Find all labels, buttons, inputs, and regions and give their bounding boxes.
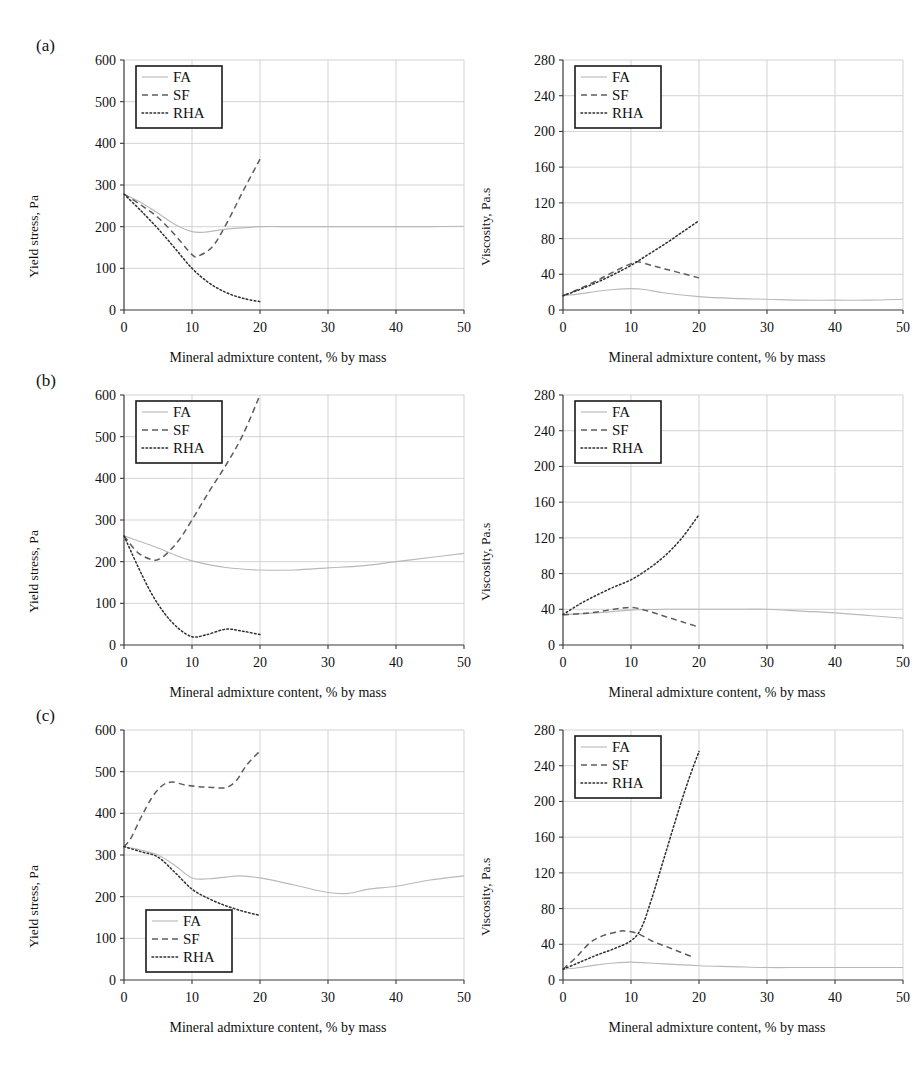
series-group (563, 221, 903, 301)
legend-label-rha: RHA (173, 440, 205, 456)
y-tick-label: 400 (95, 471, 116, 486)
x-tick-label: 10 (624, 320, 638, 335)
y-tick-label: 280 (534, 53, 555, 68)
x-tick-label: 50 (896, 655, 910, 670)
legend-label-rha: RHA (173, 105, 205, 121)
y-tick-label: 300 (95, 178, 116, 193)
legend: FASFRHA (136, 66, 222, 128)
x-tick-label: 40 (828, 990, 842, 1005)
y-tick-label: 120 (534, 196, 555, 211)
x-tick-label: 50 (896, 990, 910, 1005)
y-tick-label: 300 (95, 848, 116, 863)
chart-a_visc: 0408012016020024028001020304050FASFRHA (517, 46, 915, 344)
legend-label-rha: RHA (612, 105, 644, 121)
panel-letter: (b) (36, 371, 56, 391)
y-tick-label: 40 (541, 937, 555, 952)
legend: FASFRHA (146, 910, 232, 972)
y-tick-label: 240 (534, 89, 555, 104)
y-tick-label: 0 (109, 973, 116, 988)
x-tick-label: 40 (828, 655, 842, 670)
x-tick-label: 0 (121, 990, 128, 1005)
x-tick-label: 0 (560, 320, 567, 335)
series-line-fa (563, 962, 903, 969)
x-tick-label: 50 (896, 320, 910, 335)
x-tick-label: 0 (560, 655, 567, 670)
x-tick-label: 30 (321, 320, 335, 335)
y-tick-label: 80 (541, 232, 555, 247)
series-line-fa (563, 289, 903, 301)
chart-c_visc: 0408012016020024028001020304050FASFRHA (517, 716, 915, 1014)
panel-letter: (a) (36, 36, 55, 56)
legend-label-sf: SF (612, 757, 629, 773)
legend-label-sf: SF (173, 422, 190, 438)
panel-c_visc: Viscosity, Pa.s0408012016020024028001020… (452, 698, 908, 1033)
y-axis-label: Viscosity, Pa.s (478, 188, 494, 266)
legend: FASFRHA (575, 66, 661, 128)
y-axis-label: Viscosity, Pa.s (478, 858, 494, 936)
x-tick-label: 30 (321, 990, 335, 1005)
y-tick-label: 40 (541, 602, 555, 617)
legend: FASFRHA (575, 401, 661, 463)
y-tick-label: 120 (534, 531, 555, 546)
y-tick-label: 500 (95, 95, 116, 110)
panel-a_yield: (a)Yield stress, Pa010020030040050060001… (0, 28, 462, 363)
legend-label-sf: SF (173, 87, 190, 103)
x-axis-label: Mineral admixture content, % by mass (517, 1020, 915, 1036)
y-tick-label: 600 (95, 53, 116, 68)
figure-row-c: (c)Yield stress, Pa010020030040050060001… (0, 698, 908, 1033)
chart-b_yield: 010020030040050060001020304050FASFRHA (78, 381, 478, 679)
series-line-fa (563, 609, 903, 618)
x-tick-label: 30 (760, 990, 774, 1005)
y-tick-label: 200 (95, 890, 116, 905)
x-tick-label: 20 (253, 655, 267, 670)
plot-area-c_visc: 0408012016020024028001020304050FASFRHA (517, 716, 915, 1014)
legend-label-fa: FA (173, 404, 191, 420)
y-tick-label: 160 (534, 160, 555, 175)
series-group (124, 751, 464, 916)
x-tick-label: 0 (121, 655, 128, 670)
y-tick-label: 0 (548, 303, 555, 318)
y-tick-label: 200 (534, 124, 555, 139)
y-tick-label: 600 (95, 388, 116, 403)
x-tick-label: 20 (692, 655, 706, 670)
series-group (563, 515, 903, 628)
x-tick-label: 30 (321, 655, 335, 670)
panel-a_visc: Viscosity, Pa.s0408012016020024028001020… (452, 28, 908, 363)
x-tick-label: 10 (185, 990, 199, 1005)
figure-row-b: (b)Yield stress, Pa010020030040050060001… (0, 363, 908, 698)
y-tick-label: 400 (95, 136, 116, 151)
x-tick-label: 10 (185, 320, 199, 335)
x-tick-label: 40 (828, 320, 842, 335)
y-axis-label: Yield stress, Pa (26, 865, 42, 948)
x-tick-label: 40 (389, 655, 403, 670)
x-tick-label: 30 (760, 655, 774, 670)
x-tick-label: 20 (253, 990, 267, 1005)
y-axis-label: Yield stress, Pa (26, 530, 42, 613)
legend-label-fa: FA (173, 69, 191, 85)
panel-b_yield: (b)Yield stress, Pa010020030040050060001… (0, 363, 462, 698)
y-tick-label: 160 (534, 495, 555, 510)
y-axis-label: Yield stress, Pa (26, 195, 42, 278)
chart-b_visc: 0408012016020024028001020304050FASFRHA (517, 381, 915, 679)
y-tick-label: 0 (548, 638, 555, 653)
x-tick-label: 20 (692, 990, 706, 1005)
panel-letter: (c) (36, 706, 55, 726)
x-tick-label: 0 (121, 320, 128, 335)
y-tick-label: 240 (534, 759, 555, 774)
plot-area-c_yield: 010020030040050060001020304050FASFRHA (78, 716, 478, 1014)
legend-label-rha: RHA (183, 949, 215, 965)
y-tick-label: 100 (95, 931, 116, 946)
y-tick-label: 160 (534, 830, 555, 845)
chart-a_yield: 010020030040050060001020304050FASFRHA (78, 46, 478, 344)
chart-c_yield: 010020030040050060001020304050FASFRHA (78, 716, 478, 1014)
x-tick-label: 0 (560, 990, 567, 1005)
y-tick-label: 80 (541, 902, 555, 917)
y-tick-label: 0 (109, 303, 116, 318)
legend-label-sf: SF (183, 931, 200, 947)
legend-label-sf: SF (612, 422, 629, 438)
y-axis-label: Viscosity, Pa.s (478, 523, 494, 601)
x-axis-label: Mineral admixture content, % by mass (78, 1020, 478, 1036)
legend: FASFRHA (136, 401, 222, 463)
series-line-fa (124, 536, 464, 570)
